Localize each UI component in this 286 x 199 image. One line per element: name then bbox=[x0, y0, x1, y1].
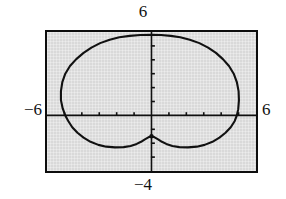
graph-viewport bbox=[45, 30, 258, 173]
polar-curve-plot bbox=[47, 32, 256, 171]
x-axis-max-label: 6 bbox=[262, 101, 286, 118]
calculator-screenshot: 6 −4 −6 6 bbox=[0, 0, 286, 199]
y-axis-max-label: 6 bbox=[0, 3, 286, 20]
y-axis-min-label: −4 bbox=[0, 176, 286, 193]
x-axis-min-label: −6 bbox=[8, 101, 42, 118]
